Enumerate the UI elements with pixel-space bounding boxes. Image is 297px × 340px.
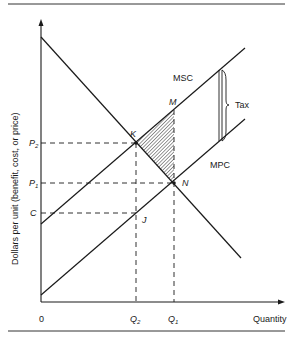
point-m-label: M	[169, 97, 177, 107]
x-axis-label: Quantity	[253, 314, 287, 324]
q1-label: Q1	[168, 314, 178, 325]
point-n-dot	[172, 181, 176, 185]
point-k-label: K	[130, 129, 137, 139]
c-label: C	[30, 208, 37, 218]
q2-label: Q2	[130, 314, 141, 325]
msc-curve	[41, 48, 245, 224]
origin-label: 0	[39, 314, 44, 324]
externality-tax-diagram: MSC MPC Tax K M N J P2 P1 C 0 Q2 Q1 Quan…	[0, 0, 297, 340]
demand-curve	[41, 37, 241, 258]
point-j-label: J	[141, 215, 147, 225]
tax-label: Tax	[235, 100, 250, 110]
mpc-label: MPC	[210, 160, 231, 170]
msc-label: MSC	[173, 73, 194, 83]
deadweight-loss-area	[136, 110, 174, 183]
tax-brace-icon	[222, 70, 229, 141]
p1-label: P1	[29, 178, 38, 189]
point-k-dot	[134, 141, 138, 145]
diagram-canvas: MSC MPC Tax K M N J P2 P1 C 0 Q2 Q1 Quan…	[0, 0, 297, 340]
y-axis-label: Dollars per unit (benefit, cost, or pric…	[10, 112, 20, 265]
x-axis-arrow-icon	[278, 300, 285, 305]
point-n-label: N	[182, 178, 189, 188]
p2-label: P2	[29, 138, 39, 149]
y-axis-arrow-icon	[39, 19, 44, 26]
